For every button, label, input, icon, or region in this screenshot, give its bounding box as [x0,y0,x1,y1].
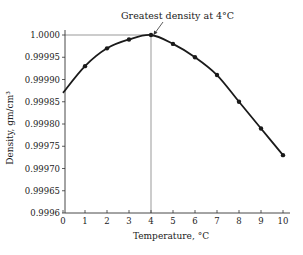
arrowhead-icon [154,31,158,36]
y-axis-ticks: 0.99960.999650.999700.999750.999800.9998… [25,30,65,218]
data-point-marker [193,55,197,59]
data-point-marker [215,73,219,77]
data-markers [83,33,285,158]
data-point-marker [105,46,109,50]
x-axis-ticks: 012345678910 [60,210,288,226]
y-tick-label: 0.99965 [25,186,60,196]
x-tick-label: 4 [148,216,153,226]
x-tick-label: 5 [170,216,175,226]
density-curve [63,35,283,155]
data-point-marker [127,37,131,41]
data-point-marker [83,64,87,68]
x-tick-label: 9 [258,216,263,226]
x-axis-label: Temperature, °C [133,231,209,241]
x-tick-label: 6 [192,216,197,226]
x-tick-label: 0 [60,216,65,226]
x-tick-label: 10 [278,216,289,226]
data-point-marker [237,100,241,104]
data-point-marker [281,153,285,157]
annotation-arrow [155,22,163,33]
y-tick-label: 0.99985 [25,97,60,107]
reference-lines [65,35,151,213]
data-point-marker [171,42,175,46]
y-tick-label: 0.99980 [25,119,60,129]
x-tick-label: 2 [104,216,109,226]
y-tick-label: 1.0000 [30,30,60,40]
max-density-annotation: Greatest density at 4°C [121,10,234,35]
y-tick-label: 0.99970 [25,164,60,174]
x-tick-label: 8 [236,216,241,226]
x-tick-label: 7 [214,216,219,226]
x-tick-label: 1 [82,216,87,226]
y-tick-label: 0.99990 [25,75,60,85]
data-point-marker [149,33,153,37]
data-point-marker [259,126,263,130]
y-tick-label: 0.9996 [30,208,60,218]
annotation-text: Greatest density at 4°C [121,10,234,21]
y-tick-label: 0.99995 [25,52,60,62]
chart-canvas: 0.99960.999650.999700.999750.999800.9998… [0,0,303,255]
x-tick-label: 3 [126,216,131,226]
y-axis-label: Density, gm/cm³ [5,91,15,165]
y-tick-label: 0.99975 [25,141,60,151]
